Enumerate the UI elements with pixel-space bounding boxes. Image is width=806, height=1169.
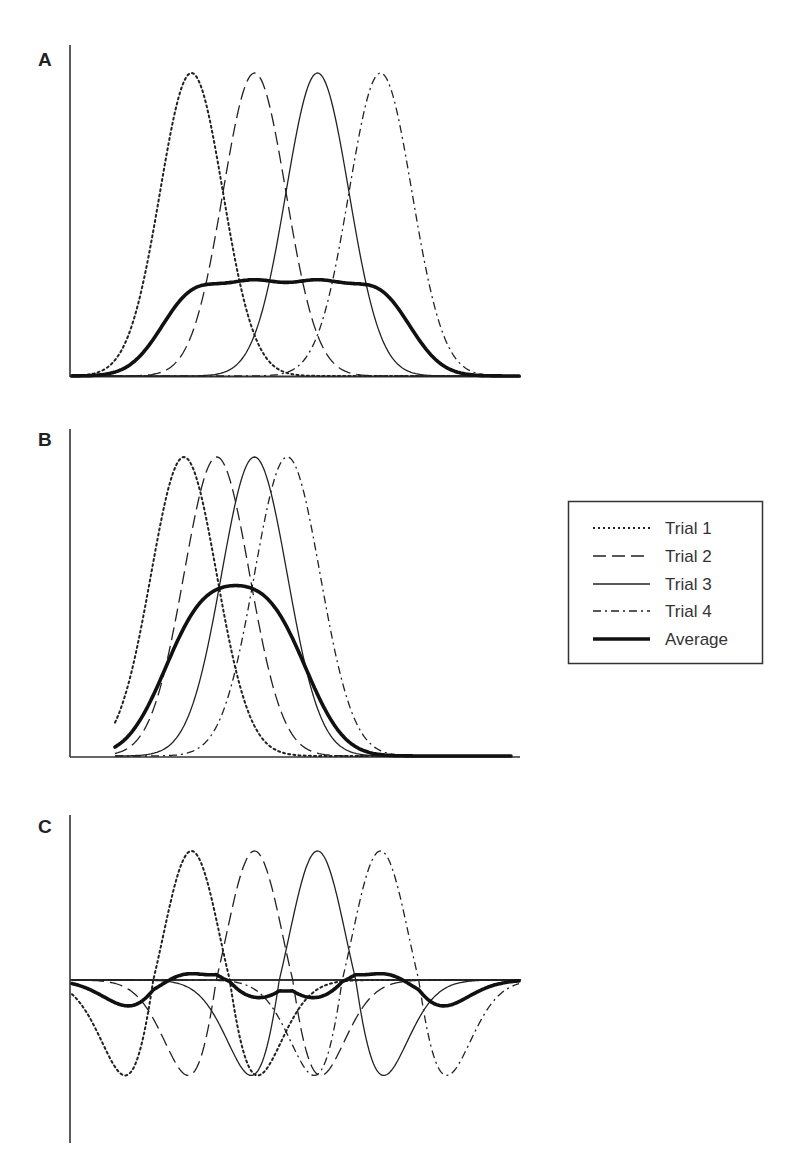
figure: A B C Trial 1 Trial 2 Trial 3 — [0, 0, 806, 1169]
series-trial-4-line — [72, 851, 519, 1075]
series-average-line — [115, 586, 511, 757]
series-trial-2-line — [72, 851, 519, 1075]
panel-c: C — [38, 815, 521, 1143]
series-trial-4-line — [72, 73, 519, 376]
series-trial-2-line — [115, 457, 511, 756]
legend-label: Average — [665, 630, 728, 649]
panel-label-b: B — [38, 429, 52, 450]
panel-b: B — [38, 429, 520, 757]
curves-c — [72, 851, 519, 1075]
series-trial-4-line — [115, 457, 511, 756]
legend-label: Trial 2 — [665, 547, 712, 566]
series-trial-1-line — [72, 851, 519, 1075]
series-trial-3-line — [115, 457, 511, 756]
curves-a — [72, 73, 519, 376]
series-trial-3-line — [72, 851, 519, 1075]
curves-b — [115, 457, 511, 756]
series-average-line — [72, 280, 519, 376]
legend: Trial 1 Trial 2 Trial 3 Trial 4 Average — [569, 502, 763, 664]
series-trial-1-line — [72, 73, 519, 376]
panel-label-c: C — [38, 816, 52, 837]
legend-label: Trial 3 — [665, 575, 712, 594]
series-trial-1-line — [115, 457, 511, 756]
panel-label-a: A — [38, 49, 52, 70]
series-trial-3-line — [72, 73, 519, 376]
series-trial-2-line — [72, 73, 519, 376]
legend-label: Trial 4 — [665, 602, 712, 621]
legend-label: Trial 1 — [665, 519, 712, 538]
panel-a: A — [38, 45, 521, 377]
